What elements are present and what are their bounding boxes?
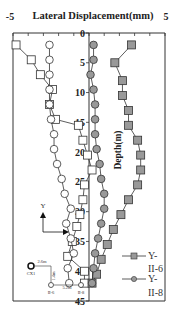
data-point xyxy=(118,77,126,85)
inset-ii6: II-6 xyxy=(48,290,55,295)
data-point xyxy=(96,160,104,168)
data-point xyxy=(46,56,54,64)
data-point xyxy=(62,220,70,228)
data-point xyxy=(90,86,98,94)
y-tick-label: 10 xyxy=(75,87,85,98)
legend-item-y-ii-8: Y- II-8 xyxy=(122,273,163,298)
data-point xyxy=(97,175,105,183)
lateral-displacement-chart: Lateral Displacement(mm) -5 5 0510152025… xyxy=(0,0,177,321)
data-point xyxy=(125,196,133,204)
data-point xyxy=(74,121,82,129)
data-point xyxy=(90,41,98,49)
data-point xyxy=(88,166,96,174)
data-point xyxy=(91,250,99,258)
data-point xyxy=(76,211,84,219)
data-point xyxy=(111,59,119,67)
data-point xyxy=(93,145,101,153)
svg-text:II-8: II-8 xyxy=(148,287,163,298)
y-tick-label: 5 xyxy=(80,57,85,68)
data-point xyxy=(117,211,125,219)
direction-arrow: Y xyxy=(40,202,69,235)
data-point xyxy=(67,205,75,213)
data-point xyxy=(125,121,133,129)
data-point xyxy=(58,175,66,183)
data-point xyxy=(109,226,117,234)
legend-item-y-ii-6: Y- II-6 xyxy=(122,250,163,274)
data-point xyxy=(36,71,44,79)
series-open-circles xyxy=(46,41,78,287)
data-series xyxy=(12,41,145,287)
data-point xyxy=(134,136,142,144)
inset-dist-1-4: 1.4m xyxy=(51,271,56,281)
y-tick-label: 0 xyxy=(80,28,85,39)
data-point xyxy=(50,145,58,153)
data-point xyxy=(88,279,96,287)
data-point xyxy=(73,223,81,231)
svg-text:Y-: Y- xyxy=(148,273,157,284)
data-point xyxy=(64,264,72,272)
data-point xyxy=(137,151,145,159)
data-point xyxy=(91,116,99,124)
y-axis-label: Depth(m) xyxy=(113,130,124,169)
data-point xyxy=(12,41,20,49)
data-point xyxy=(87,71,95,79)
data-point xyxy=(91,130,99,138)
data-point xyxy=(46,71,54,79)
y-tick-label: 45 xyxy=(75,296,85,307)
data-point xyxy=(97,220,105,228)
data-point xyxy=(100,190,108,198)
inset-dist-5-2: 5.2m xyxy=(62,285,72,290)
data-point xyxy=(47,116,55,124)
arrow-y-label: Y xyxy=(40,202,45,210)
x-min-label: -5 xyxy=(6,11,14,22)
data-point xyxy=(46,41,54,49)
data-point xyxy=(70,250,78,258)
data-point xyxy=(90,56,98,64)
data-point xyxy=(46,101,54,109)
data-point xyxy=(61,190,69,198)
data-point xyxy=(94,235,102,243)
data-point xyxy=(79,196,87,204)
data-point xyxy=(80,267,88,275)
svg-text:Y-: Y- xyxy=(148,250,157,261)
data-point xyxy=(97,255,105,263)
data-point xyxy=(134,181,142,189)
data-point xyxy=(128,41,136,49)
x-max-label: 5 xyxy=(164,11,169,22)
data-point xyxy=(83,151,91,159)
data-point xyxy=(67,235,75,243)
data-point xyxy=(53,160,61,168)
data-point xyxy=(50,130,58,138)
chart-title: Lateral Displacement(mm) xyxy=(32,10,154,22)
inset-dist-2-6: 2.6m xyxy=(37,259,47,264)
data-point xyxy=(100,205,108,213)
data-point xyxy=(90,264,98,272)
data-point xyxy=(118,92,126,100)
data-point xyxy=(27,56,35,64)
inset-cx1: CX1 xyxy=(27,271,36,276)
data-point xyxy=(80,181,88,189)
data-point xyxy=(46,86,54,94)
data-point xyxy=(91,101,99,109)
legend: Y- II-6 Y- II-8 xyxy=(122,250,163,298)
data-point xyxy=(137,166,145,174)
inset-ii8: II-8 xyxy=(78,290,85,295)
data-point xyxy=(103,240,111,248)
data-point xyxy=(125,106,133,114)
data-point xyxy=(79,136,87,144)
